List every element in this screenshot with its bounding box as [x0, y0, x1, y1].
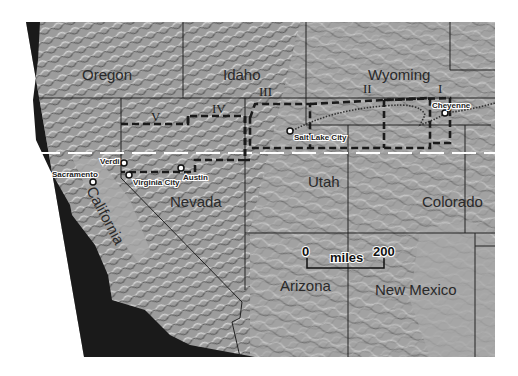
city-label: Austin	[183, 173, 208, 182]
state-label-new-mexico: New Mexico	[375, 281, 457, 298]
region-label-III: III	[259, 84, 272, 99]
relief-map: I II III IV V Oregon Idaho Wyoming Calif…	[0, 0, 518, 376]
scale-unit-label: miles	[330, 250, 363, 265]
city-marker-icon	[90, 179, 96, 185]
state-label-nevada: Nevada	[170, 193, 222, 210]
state-label-utah: Utah	[308, 173, 340, 190]
region-label-IV: IV	[212, 101, 226, 116]
state-label-oregon: Oregon	[82, 66, 132, 83]
city-marker-icon	[178, 165, 184, 171]
city-marker-icon	[442, 110, 448, 116]
city-label: Verdi	[100, 157, 120, 166]
region-label-V: V	[151, 109, 161, 124]
state-label-idaho: Idaho	[223, 66, 261, 83]
city-label: Virginia City	[133, 178, 180, 187]
region-label-II: II	[363, 81, 372, 96]
region-label-I: I	[438, 81, 442, 96]
city-label: Cheyenne	[432, 101, 471, 110]
state-label-arizona: Arizona	[280, 277, 332, 294]
state-label-colorado: Colorado	[422, 193, 483, 210]
scale-end-label: 200	[373, 244, 395, 259]
scale-start-label: 0	[302, 244, 309, 259]
state-label-wyoming: Wyoming	[368, 66, 430, 83]
city-label: Salt Lake City	[294, 133, 347, 142]
city-marker-icon	[126, 172, 132, 178]
city-label: Sacramento	[52, 170, 98, 179]
city-marker-icon	[121, 160, 127, 166]
city-marker-icon	[287, 128, 293, 134]
